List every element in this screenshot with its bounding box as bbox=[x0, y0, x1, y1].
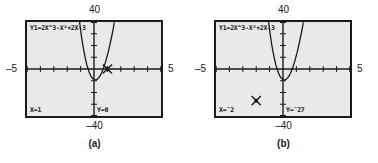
calculator-screen-a: Y1=2X^3-X²+2X-3 X=1 Y=0 bbox=[25, 20, 163, 118]
panel-caption-a: (a) bbox=[0, 138, 189, 149]
panel-caption-b: (b) bbox=[189, 138, 378, 149]
axis-label-bottom-b: –40 bbox=[189, 120, 378, 131]
graph-svg-a bbox=[27, 22, 161, 116]
figure-row: 40 –5 5 –40 bbox=[0, 0, 378, 163]
axis-label-left-a: –5 bbox=[6, 63, 17, 74]
cursor-marker-b bbox=[252, 96, 261, 105]
axis-label-top-b: 40 bbox=[189, 4, 378, 15]
x-value-readout-b: X=¯2 bbox=[219, 106, 234, 114]
graph-svg-b bbox=[216, 22, 350, 116]
axis-label-left-b: –5 bbox=[195, 63, 206, 74]
calculator-screen-b: Y1=2X^3-X²+2X-3 X=¯2 Y=¯27 bbox=[214, 20, 352, 118]
panel-b: 40 –5 5 –40 bbox=[189, 0, 378, 163]
plot-area-a bbox=[27, 22, 161, 116]
y-value-readout-a: Y=0 bbox=[97, 106, 108, 114]
axis-label-right-b: 5 bbox=[357, 63, 363, 74]
axis-label-top-a: 40 bbox=[0, 4, 189, 15]
axis-label-right-a: 5 bbox=[168, 63, 174, 74]
axis-label-bottom-a: –40 bbox=[0, 120, 189, 131]
x-value-readout-a: X=1 bbox=[30, 106, 41, 114]
equation-readout-b: Y1=2X^3-X²+2X-3 bbox=[219, 24, 275, 32]
panel-a: 40 –5 5 –40 bbox=[0, 0, 189, 163]
y-value-readout-b: Y=¯27 bbox=[286, 106, 305, 114]
equation-readout-a: Y1=2X^3-X²+2X-3 bbox=[30, 24, 86, 32]
plot-area-b bbox=[216, 22, 350, 116]
